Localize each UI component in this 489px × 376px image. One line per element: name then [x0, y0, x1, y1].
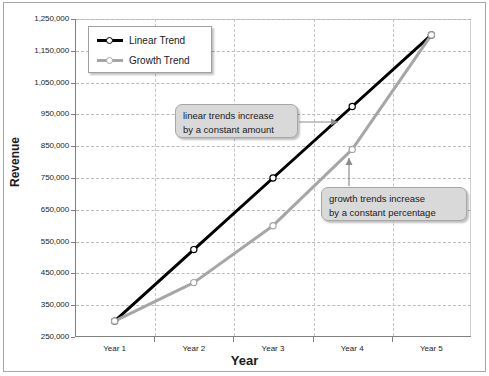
x-axis-tick-label: Year 5: [391, 344, 471, 353]
legend-label-growth-trend: Growth Trend: [129, 55, 190, 66]
x-axis-tick-mark: [233, 337, 234, 342]
gridline-horizontal: [76, 242, 471, 243]
y-axis-tick-label: 450,000: [7, 268, 69, 277]
y-axis-tick-label: 750,000: [7, 173, 69, 182]
annotation-linear-line2: by a constant amount: [183, 123, 290, 137]
gridline-vertical: [393, 19, 394, 336]
x-axis-tick-label: Year 2: [154, 344, 234, 353]
legend-item-growth-trend[interactable]: Growth Trend: [97, 52, 190, 68]
annotation-linear-line1: linear trends increase: [183, 109, 290, 123]
y-axis-title: Revenue: [8, 112, 22, 212]
x-axis-tick-label: Year 1: [75, 344, 155, 353]
annotation-growth-line1: growth trends increase: [329, 192, 459, 206]
y-axis-tick-label: 1,150,000: [7, 46, 69, 55]
gridline-vertical: [314, 19, 315, 336]
y-axis-tick-mark: [71, 337, 75, 338]
gridline-horizontal: [76, 178, 471, 179]
y-axis-tick-label: 550,000: [7, 237, 69, 246]
x-axis-tick-label: Year 3: [233, 344, 313, 353]
gridline-horizontal: [76, 146, 471, 147]
y-axis-tick-label: 1,250,000: [7, 14, 69, 23]
y-axis-tick-label: 350,000: [7, 300, 69, 309]
gridline-horizontal: [76, 305, 471, 306]
annotation-callout-linear: linear trends increase by a constant amo…: [175, 104, 298, 138]
x-axis-tick-mark: [154, 337, 155, 342]
annotation-growth-line2: by a constant percentage: [329, 206, 459, 220]
x-axis-title: Year: [0, 353, 489, 368]
x-axis-tick-mark: [392, 337, 393, 342]
y-axis-tick-label: 1,050,000: [7, 78, 69, 87]
legend-marker-linear-trend-icon: [97, 35, 123, 45]
x-axis-tick-label: Year 4: [312, 344, 392, 353]
legend-label-linear-trend: Linear Trend: [129, 35, 185, 46]
gridline-horizontal: [76, 83, 471, 84]
gridline-horizontal: [76, 273, 471, 274]
gridline-vertical: [234, 19, 235, 336]
chart-legend[interactable]: Linear Trend Growth Trend: [88, 26, 212, 73]
x-axis-tick-mark: [313, 337, 314, 342]
chart-container: Revenue 1,250,0001,150,0001,050,000950,0…: [0, 0, 489, 376]
annotation-callout-growth: growth trends increase by a constant per…: [321, 187, 467, 221]
y-axis-tick-label: 850,000: [7, 141, 69, 150]
y-axis-tick-label: 250,000: [7, 332, 69, 341]
gridline-horizontal: [76, 19, 471, 20]
y-axis-tick-label: 650,000: [7, 205, 69, 214]
legend-item-linear-trend[interactable]: Linear Trend: [97, 32, 185, 48]
legend-marker-growth-trend-icon: [97, 55, 123, 65]
y-axis-tick-label: 950,000: [7, 109, 69, 118]
